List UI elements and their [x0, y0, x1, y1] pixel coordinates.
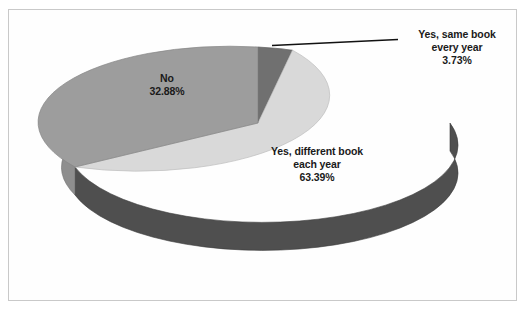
pie-label-no-text: No	[112, 72, 222, 85]
pie-label-different-book-value: 63.39%	[232, 171, 402, 184]
leader-line-same-book	[272, 40, 398, 46]
pie-label-no: No 32.88%	[112, 72, 222, 98]
pie-label-different-book: Yes, different book each year 63.39%	[232, 145, 402, 184]
chart-figure: No 32.88% Yes, different book each year …	[0, 0, 527, 311]
pie-chart-plot-area: No 32.88% Yes, different book each year …	[0, 0, 527, 311]
pie-label-same-book-line1: Yes, same book	[396, 28, 518, 41]
pie-label-different-book-line1: Yes, different book	[232, 145, 402, 158]
pie-label-no-value: 32.88%	[112, 85, 222, 98]
pie-label-same-book: Yes, same book every year 3.73%	[396, 28, 518, 67]
pie-label-same-book-value: 3.73%	[396, 54, 518, 67]
pie-label-same-book-line2: every year	[396, 41, 518, 54]
pie-label-different-book-line2: each year	[232, 158, 402, 171]
